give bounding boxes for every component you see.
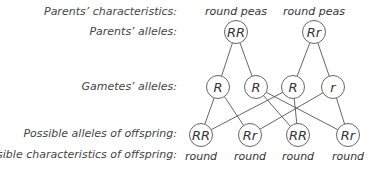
offspring-characteristic: round (282, 150, 315, 163)
edge-gamete-offspring (205, 98, 214, 124)
edge-gamete-offspring (294, 98, 297, 123)
offspring-allele-node-label: Rr (243, 128, 259, 143)
parent-allele-node-label: Rr (307, 25, 323, 40)
edge-parent-gamete (297, 43, 310, 77)
gamete-allele-node-label: R (213, 80, 222, 95)
gamete-allele-node-label: R (251, 80, 260, 95)
offspring-characteristic: round (234, 150, 267, 163)
offspring-allele-node-label: RR (192, 128, 210, 143)
gamete-allele-node-label: R (288, 80, 297, 95)
parent-characteristic: round peas (283, 5, 345, 18)
edge-parent-gamete (222, 43, 233, 76)
parent-characteristic: round peas (205, 5, 267, 18)
offspring-characteristic: round (185, 150, 218, 163)
offspring-characteristic: round (332, 150, 365, 163)
inheritance-diagram: RRround peasRrround peasRRRrRRroundRrrou… (0, 0, 372, 172)
edge-parent-gamete (318, 43, 329, 76)
parent-allele-node-label: RR (227, 25, 245, 40)
edge-parent-gamete (240, 43, 252, 76)
offspring-allele-node-label: Rr (341, 128, 357, 143)
offspring-allele-node-label: RR (289, 128, 307, 143)
edge-gamete-offspring (336, 98, 344, 124)
